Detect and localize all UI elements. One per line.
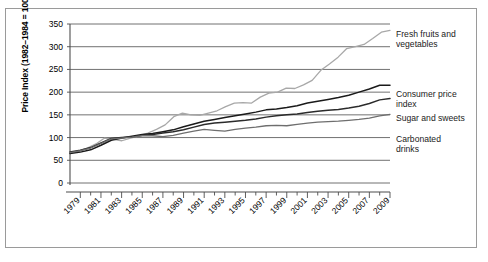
- series-label: Consumer price: [396, 89, 457, 99]
- x-axis-tick-label: 1991: [185, 195, 206, 216]
- y-axis-tick-labels: 050100150200250300350: [49, 19, 63, 188]
- plot-area: 050100150200250300350 197919811983198519…: [6, 9, 478, 249]
- x-axis-tick-labels: 1979198119831985198719891991199319951997…: [61, 195, 391, 216]
- series-label: Sugar and sweets: [396, 113, 465, 123]
- series-line: [70, 30, 390, 153]
- x-axis-tick-label: 1999: [268, 195, 289, 216]
- x-axis-tick-label: 1987: [144, 195, 165, 216]
- x-axis-tick-label: 2007: [350, 195, 371, 216]
- x-axis-tick-label: 1989: [165, 195, 186, 216]
- x-axis-tick-label: 2003: [309, 195, 330, 216]
- series-label: Fresh fruits and: [396, 29, 456, 39]
- x-axis-tick-label: 1995: [226, 195, 247, 216]
- series-line: [70, 85, 390, 153]
- y-axis-tick-label: 250: [49, 64, 63, 74]
- x-axis-tick-label: 2001: [288, 195, 309, 216]
- series-line: [70, 114, 390, 152]
- line-chart-svg: 050100150200250300350 197919811983198519…: [6, 9, 478, 249]
- y-axis-tick-label: 150: [49, 110, 63, 120]
- x-axis-tick-label: 1979: [61, 195, 82, 216]
- x-axis-tick-label: 1997: [247, 195, 268, 216]
- x-axis-tick-label: 1983: [103, 195, 124, 216]
- chart-figure: Price Index (1982–1984 = 100) 0501001502…: [5, 8, 477, 248]
- y-axis-tick-label: 0: [58, 178, 63, 188]
- series-label: vegetables: [396, 39, 438, 49]
- x-axis-tick-label: 1985: [123, 195, 144, 216]
- x-axis-tick-label: 2009: [371, 195, 392, 216]
- y-axis-tick-label: 100: [49, 133, 63, 143]
- x-axis-tick-label: 2005: [330, 195, 351, 216]
- x-axis-tick-label: 1981: [82, 195, 103, 216]
- series-label: Carbonated: [396, 134, 441, 144]
- y-axis-tick-label: 50: [54, 155, 64, 165]
- series-inline-labels: Fresh fruits andvegetablesConsumer price…: [396, 29, 465, 154]
- grid-lines: [67, 24, 390, 183]
- y-axis-tick-label: 300: [49, 42, 63, 52]
- y-axis-tick-label: 200: [49, 87, 63, 97]
- y-axis-tick-label: 350: [49, 19, 63, 29]
- series-line: [70, 99, 390, 153]
- series-label: drinks: [396, 144, 419, 154]
- series-label: index: [396, 99, 417, 109]
- x-axis-tick-label: 1993: [206, 195, 227, 216]
